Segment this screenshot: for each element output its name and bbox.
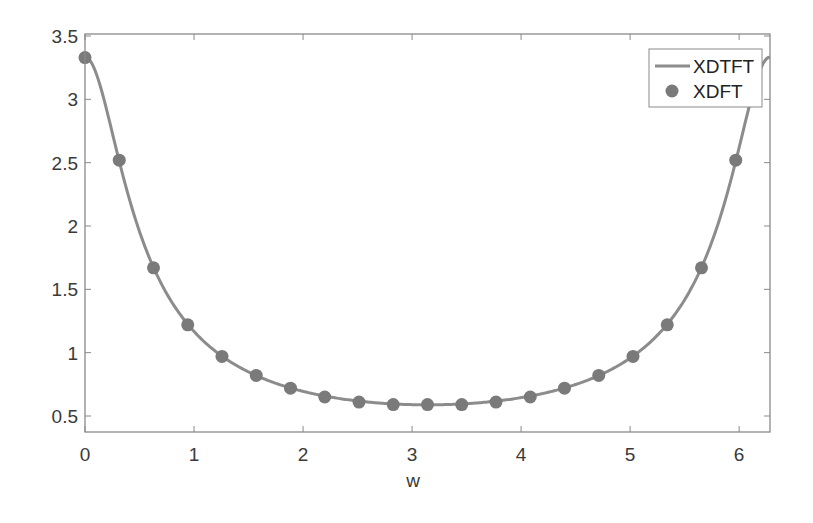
data-point: [558, 382, 571, 395]
x-tick-label: 0: [80, 444, 91, 465]
data-point: [250, 369, 263, 382]
y-tick-label: 1: [67, 343, 78, 364]
data-point: [592, 369, 605, 382]
y-tick-label: 0.5: [52, 406, 78, 427]
data-point: [387, 398, 400, 411]
legend-label-xdtft: XDTFT: [693, 56, 755, 77]
y-tick-label: 3: [67, 89, 78, 110]
y-tick-label: 2.5: [52, 153, 78, 174]
xdft-markers: [79, 51, 743, 411]
x-axis-label: w: [405, 470, 420, 491]
x-tick-label: 6: [734, 444, 745, 465]
data-point: [524, 391, 537, 404]
data-point: [626, 350, 639, 363]
data-point: [489, 396, 502, 409]
legend-label-xdft: XDFT: [693, 81, 743, 102]
data-point: [729, 154, 742, 167]
data-point: [661, 318, 674, 331]
data-point: [215, 350, 228, 363]
x-tick-label: 3: [407, 444, 418, 465]
x-tick-label: 5: [625, 444, 636, 465]
data-point: [455, 398, 468, 411]
data-point: [695, 261, 708, 274]
marker-legend-icon: [666, 85, 679, 98]
data-point: [147, 261, 160, 274]
data-point: [353, 396, 366, 409]
y-tick-label: 1.5: [52, 279, 78, 300]
y-tick-label: 2: [67, 216, 78, 237]
x-tick-label: 1: [189, 444, 200, 465]
x-tick-label: 2: [298, 444, 309, 465]
chart: 01234560.511.522.533.5 w XDTFT XDFT: [0, 0, 813, 523]
data-point: [181, 318, 194, 331]
data-point: [318, 391, 331, 404]
legend: XDTFT XDFT: [649, 49, 762, 107]
y-tick-label: 3.5: [52, 26, 78, 47]
data-point: [421, 398, 434, 411]
x-tick-label: 4: [516, 444, 527, 465]
xdtft-line: [85, 57, 770, 405]
data-point: [284, 382, 297, 395]
data-point: [113, 154, 126, 167]
